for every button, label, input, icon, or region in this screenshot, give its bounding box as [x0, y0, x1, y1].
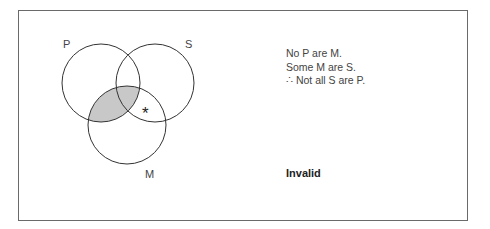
premise-1: No P are M.: [286, 47, 365, 61]
circle-s: [116, 44, 194, 122]
label-m: M: [145, 168, 154, 180]
existence-mark: *: [142, 104, 149, 124]
label-p: P: [63, 38, 70, 50]
label-s: S: [185, 38, 192, 50]
argument-text: No P are M. Some M are S. ∴ Not all S ar…: [286, 47, 365, 88]
venn-diagram: [0, 0, 490, 229]
conclusion: ∴ Not all S are P.: [286, 74, 365, 88]
verdict: Invalid: [286, 167, 321, 179]
premise-2: Some M are S.: [286, 61, 365, 75]
